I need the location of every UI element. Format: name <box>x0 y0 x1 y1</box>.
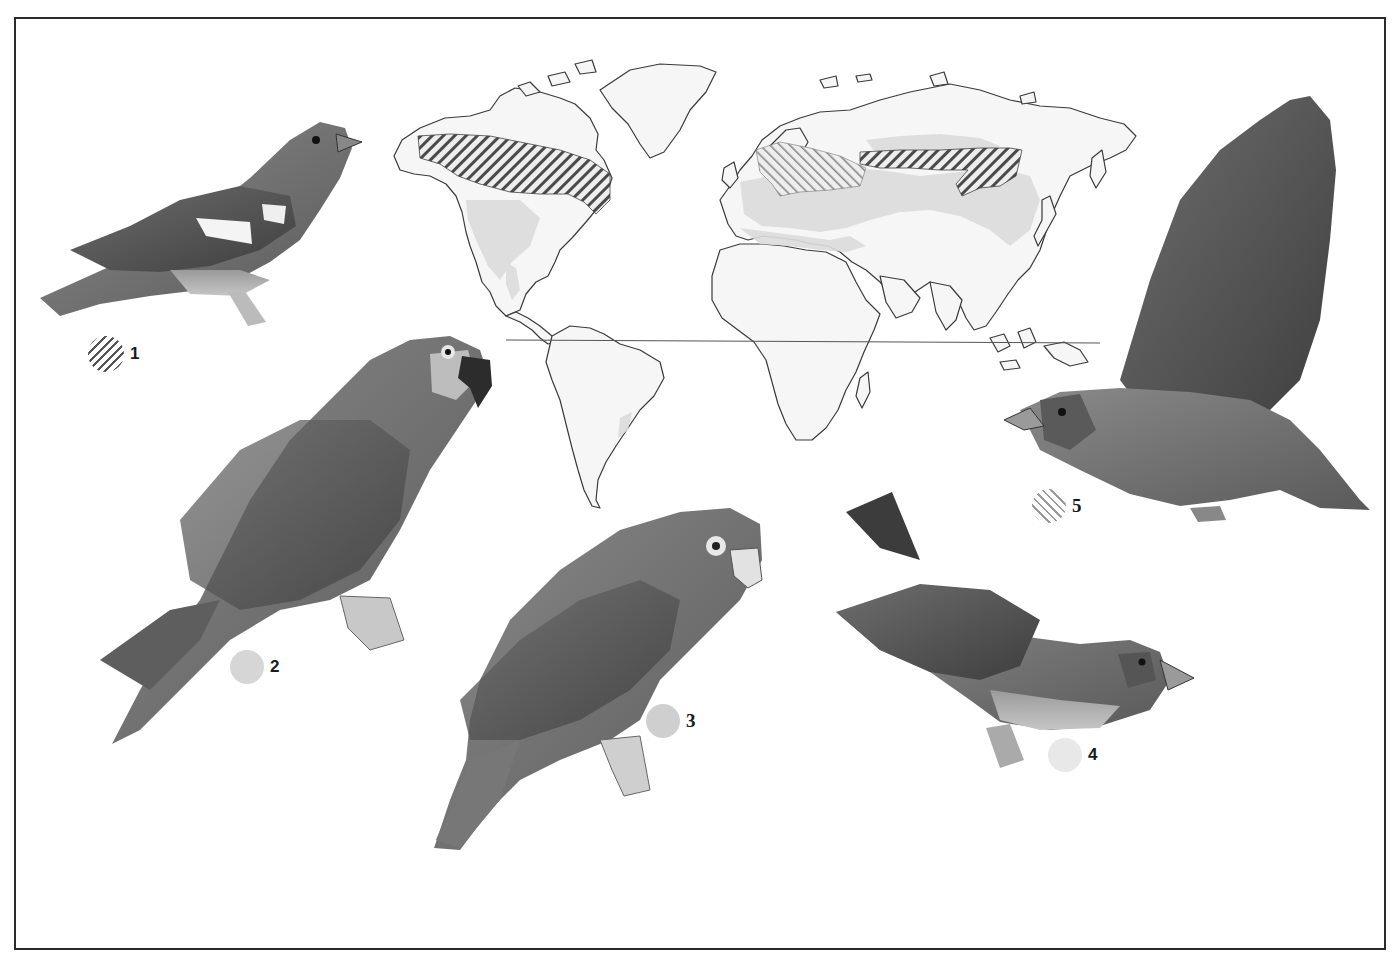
legend-label-5: 5 <box>1072 495 1082 517</box>
hatch-dark-swatch-icon <box>88 336 124 372</box>
solid-swatch-4-icon <box>1048 738 1082 772</box>
bird-1-finch-icon <box>40 122 362 326</box>
legend-key-3: 3 <box>646 704 696 738</box>
bird-illustrations <box>0 0 1396 966</box>
legend-label-4: 4 <box>1088 745 1097 765</box>
legend-label-3: 3 <box>686 710 696 732</box>
legend-label-1: 1 <box>130 344 139 364</box>
legend-key-2: 2 <box>230 650 279 684</box>
legend-key-4: 4 <box>1048 738 1097 772</box>
legend-label-2: 2 <box>270 657 279 677</box>
hatch-light-swatch-icon <box>1032 489 1066 523</box>
bird-5-grosbeak-flying-icon <box>1004 96 1370 522</box>
legend-key-1: 1 <box>88 336 139 372</box>
bird-4-grosbeak-icon <box>836 492 1194 768</box>
solid-swatch-3-icon <box>646 704 680 738</box>
bird-3-parrot-icon <box>434 508 762 850</box>
bird-2-parrot-icon <box>100 336 492 744</box>
legend-key-5: 5 <box>1032 489 1082 523</box>
solid-swatch-2-icon <box>230 650 264 684</box>
